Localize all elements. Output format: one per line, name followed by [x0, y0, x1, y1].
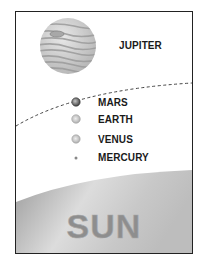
venus-planet-icon	[72, 135, 80, 143]
diagram-frame: SUN JUPITER MARS EARTH VENUS MERCURY	[15, 11, 193, 254]
mars-label: MARS	[98, 97, 128, 108]
mars-planet-icon	[72, 98, 80, 106]
sun-label: SUN	[67, 207, 142, 245]
earth-label: EARTH	[98, 114, 133, 125]
mercury-label: MERCURY	[98, 152, 149, 163]
venus-label: VENUS	[98, 134, 133, 145]
jupiter-label: JUPITER	[119, 40, 162, 51]
earth-planet-icon	[72, 115, 81, 124]
mercury-planet-icon	[75, 157, 78, 160]
jupiter-planet-icon	[38, 18, 100, 74]
diagram-art: SUN	[16, 12, 192, 253]
